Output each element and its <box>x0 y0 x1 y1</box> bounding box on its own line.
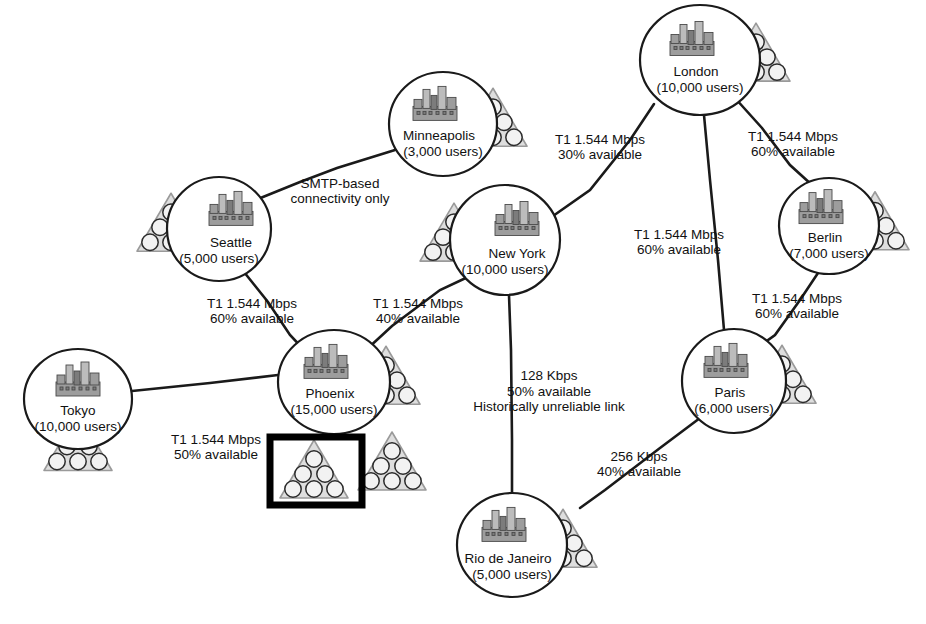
edge-label-line: T1 1.544 Mbps <box>748 129 838 144</box>
edge-label-line: 40% available <box>597 464 681 479</box>
edge-label-line: T1 1.544 Mbps <box>555 132 645 147</box>
node-city-name: Phoenix <box>306 386 355 401</box>
node-seattle[interactable]: Seattle(5,000 users) <box>137 177 271 281</box>
edge-label-line: T1 1.544 Mbps <box>634 227 724 242</box>
edge-label-newyork-london: T1 1.544 Mbps30% available <box>555 132 645 163</box>
node-user-count: (10,000 users) <box>656 80 743 95</box>
edge-label-line: 128 Kbps <box>520 368 577 383</box>
node-user-count: (10,000 users) <box>34 419 121 434</box>
edge-label-line: T1 1.544 Mbps <box>373 296 463 311</box>
edge-label-line: 50% available <box>174 447 258 462</box>
diagram-canvas: SMTP-basedconnectivity onlyT1 1.544 Mbps… <box>0 0 926 624</box>
edge-label-line: T1 1.544 Mbps <box>171 432 261 447</box>
server-group-icon[interactable] <box>280 440 348 498</box>
edge-label-line: 30% available <box>558 147 642 162</box>
node-city-name: London <box>673 64 718 79</box>
node-city-name: Paris <box>715 385 746 400</box>
network-diagram-root: SMTP-basedconnectivity onlyT1 1.544 Mbps… <box>0 0 926 624</box>
edge-label-seattle-phoenix: T1 1.544 Mbps60% available <box>207 296 297 327</box>
edge-label-line: Historically unreliable link <box>473 399 625 414</box>
edge-label-line: SMTP-based <box>301 176 380 191</box>
edge-label-line: 50% available <box>507 384 591 399</box>
node-newyork[interactable]: New York(10,000 users) <box>420 185 560 295</box>
edge-tokyo-phoenix[interactable] <box>132 375 278 391</box>
node-paris[interactable]: Paris(6,000 users) <box>682 329 816 433</box>
node-user-count: (3,000 users) <box>403 144 483 159</box>
site-circle[interactable] <box>24 349 132 449</box>
node-tokyo[interactable]: Tokyo(10,000 users) <box>24 349 132 471</box>
edge-label-phoenix-newyork: T1 1.544 Mbps40% available <box>373 296 463 327</box>
node-city-name: Berlin <box>808 230 843 245</box>
edge-label-paris-rio: 256 Kbps40% available <box>597 449 681 480</box>
node-rio[interactable]: Rio de Janeiro(5,000 users) <box>457 493 597 597</box>
node-user-count: (15,000 users) <box>290 402 377 417</box>
node-london[interactable]: London(10,000 users) <box>640 5 790 115</box>
node-city-name: Minneapolis <box>403 128 475 143</box>
edge-label-newyork-rio: 128 Kbps50% availableHistorically unreli… <box>473 368 625 414</box>
edge-label-tokyo-phoenix: T1 1.544 Mbps50% available <box>171 432 261 463</box>
node-user-count: (7,000 users) <box>789 246 869 261</box>
node-user-count: (5,000 users) <box>179 251 259 266</box>
edge-label-line: T1 1.544 Mbps <box>752 291 842 306</box>
edge-label-line: 60% available <box>210 311 294 326</box>
edge-label-london-paris: T1 1.544 Mbps60% available <box>634 227 724 258</box>
edge-label-line: T1 1.544 Mbps <box>207 296 297 311</box>
node-berlin[interactable]: Berlin(7,000 users) <box>779 178 909 274</box>
edge-label-line: 256 Kbps <box>610 449 667 464</box>
edge-label-line: 60% available <box>755 306 839 321</box>
node-user-count: (6,000 users) <box>694 401 774 416</box>
node-city-name: Tokyo <box>60 403 95 418</box>
standalone-triangles-layer <box>280 432 426 498</box>
node-city-name: New York <box>488 246 545 261</box>
edge-label-line: 60% available <box>637 242 721 257</box>
node-user-count: (5,000 users) <box>472 567 552 582</box>
edge-label-line: connectivity only <box>290 191 389 206</box>
edge-label-seattle-minneapolis: SMTP-basedconnectivity only <box>290 176 389 207</box>
site-circle[interactable] <box>450 185 560 295</box>
node-city-name: Rio de Janeiro <box>464 551 551 566</box>
node-phoenix[interactable]: Phoenix(15,000 users) <box>278 330 420 434</box>
node-city-name: Seattle <box>210 235 252 250</box>
edge-label-line: 40% available <box>376 311 460 326</box>
edge-label-london-berlin: T1 1.544 Mbps60% available <box>748 129 838 160</box>
node-user-count: (10,000 users) <box>461 262 548 277</box>
node-minneapolis[interactable]: Minneapolis(3,000 users) <box>389 72 527 176</box>
edge-label-line: 60% available <box>751 144 835 159</box>
edge-label-berlin-paris: T1 1.544 Mbps60% available <box>752 291 842 322</box>
server-group-icon[interactable] <box>358 432 426 490</box>
edge-london-paris[interactable] <box>704 115 724 330</box>
